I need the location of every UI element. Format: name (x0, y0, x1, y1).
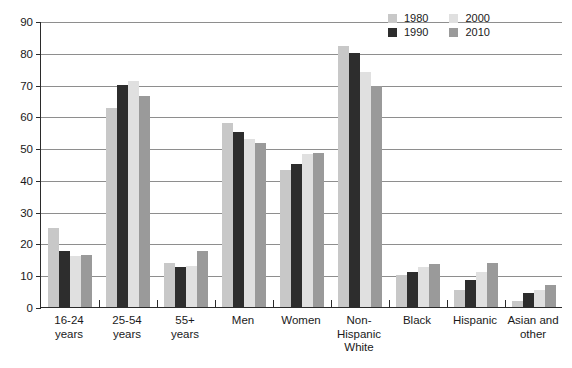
plot-area: 0102030405060708090 (40, 22, 562, 308)
x-axis-label-line: White (330, 341, 388, 355)
y-axis-tick-label: 20 (20, 238, 33, 250)
y-axis-tick-label: 40 (20, 175, 33, 187)
bar-1980-asian-and-other (512, 301, 523, 307)
legend-label-1990: 1990 (404, 26, 442, 38)
bar-group (505, 22, 563, 307)
bar-1980-hispanic (454, 290, 465, 307)
bar-1980-women (280, 170, 291, 307)
x-axis-label-line: Black (388, 314, 446, 328)
x-axis-label-25-54-years: 25-54years (98, 314, 156, 341)
y-axis-tick-label: 60 (20, 111, 33, 123)
bar-1990-hispanic (465, 280, 476, 307)
y-axis-tick-label: 50 (20, 143, 33, 155)
x-axis-group-divider (99, 300, 100, 307)
chart-legend: 1980200019902010 (388, 12, 504, 38)
x-axis-label-line: Men (214, 314, 272, 328)
x-axis-label-line: Hispanic (446, 314, 504, 328)
bar-1990-16-24-years (59, 251, 70, 307)
bar-1980-16-24-years (48, 228, 59, 307)
bar-1990-55+-years (175, 267, 186, 307)
bar-2010-men (255, 143, 266, 307)
bar-2000-women (302, 154, 313, 307)
bar-1980-non-hispanic-white (338, 46, 349, 307)
legend-label-1980: 1980 (404, 12, 442, 24)
bar-1980-men (222, 123, 233, 307)
x-axis-group-divider (215, 300, 216, 307)
legend-swatch-2010 (449, 28, 458, 37)
bar-2010-hispanic (487, 263, 498, 307)
x-axis-label-line: 16-24 (40, 314, 98, 328)
legend-label-2000: 2000 (465, 12, 503, 24)
bar-1990-women (291, 164, 302, 307)
x-axis-group-divider (389, 300, 390, 307)
x-axis-label-16-24-years: 16-24years (40, 314, 98, 341)
x-axis-label-men: Men (214, 314, 272, 328)
bar-group (273, 22, 331, 307)
bar-2010-25-54-years (139, 96, 150, 307)
y-axis-tick-label: 90 (20, 16, 33, 28)
x-axis-label-line: years (98, 328, 156, 342)
bar-1990-black (407, 272, 418, 307)
bar-group (99, 22, 157, 307)
x-axis-label-hispanic: Hispanic (446, 314, 504, 328)
x-axis-label-line: Hispanic (330, 328, 388, 342)
bar-1980-25-54-years (106, 108, 117, 307)
legend-swatch-1980 (388, 14, 397, 23)
x-axis-label-line: 55+ (156, 314, 214, 328)
y-axis-tick-label: 70 (20, 80, 33, 92)
x-axis-label-women: Women (272, 314, 330, 328)
y-axis-tick (36, 308, 41, 309)
x-axis-label-black: Black (388, 314, 446, 328)
x-axis-label-line: years (40, 328, 98, 342)
bar-group (331, 22, 389, 307)
bar-1990-men (233, 132, 244, 307)
legend-swatch-1990 (388, 28, 397, 37)
x-axis-label-asian-and-other: Asian andother (504, 314, 562, 341)
x-axis-label-line: years (156, 328, 214, 342)
bar-2010-women (313, 153, 324, 307)
bar-2000-asian-and-other (534, 290, 545, 307)
bar-2010-black (429, 264, 440, 307)
bar-group (389, 22, 447, 307)
x-axis-label-line: Asian and (504, 314, 562, 328)
x-axis-group-divider (447, 300, 448, 307)
bar-2010-non-hispanic-white (371, 86, 382, 307)
y-axis-tick-label: 80 (20, 48, 33, 60)
legend-swatch-2000 (449, 14, 458, 23)
bar-group (215, 22, 273, 307)
bar-2010-55+-years (197, 251, 208, 307)
x-axis-group-divider (505, 300, 506, 307)
y-axis-tick-label: 0 (27, 302, 33, 314)
bar-1990-25-54-years (117, 85, 128, 307)
x-axis-label-55+-years: 55+years (156, 314, 214, 341)
x-axis-label-non-hispanic-white: Non-HispanicWhite (330, 314, 388, 355)
x-axis-group-divider (273, 300, 274, 307)
bar-1990-asian-and-other (523, 293, 534, 307)
bar-2000-hispanic (476, 272, 487, 307)
bar-1990-non-hispanic-white (349, 53, 360, 307)
bar-group (447, 22, 505, 307)
bar-1980-black (396, 275, 407, 307)
bar-group (41, 22, 99, 307)
bar-1980-55+-years (164, 263, 175, 307)
x-axis-group-divider (157, 300, 158, 307)
x-axis-group-divider (331, 300, 332, 307)
bar-2010-16-24-years (81, 255, 92, 307)
bar-2010-asian-and-other (545, 285, 556, 307)
bar-group (157, 22, 215, 307)
bar-2000-non-hispanic-white (360, 72, 371, 307)
legend-label-2010: 2010 (465, 26, 503, 38)
y-axis-tick-label: 30 (20, 207, 33, 219)
bar-chart: 0102030405060708090 1980200019902010 16-… (0, 0, 572, 368)
bar-2000-men (244, 139, 255, 307)
bar-2000-55+-years (186, 266, 197, 307)
y-axis-tick-label: 10 (20, 270, 33, 282)
x-axis-label-line: Women (272, 314, 330, 328)
bar-2000-16-24-years (70, 256, 81, 307)
bar-2000-black (418, 267, 429, 307)
x-axis-label-line: other (504, 328, 562, 342)
bar-2000-25-54-years (128, 81, 139, 307)
x-axis-label-line: 25-54 (98, 314, 156, 328)
x-axis-label-line: Non- (330, 314, 388, 328)
